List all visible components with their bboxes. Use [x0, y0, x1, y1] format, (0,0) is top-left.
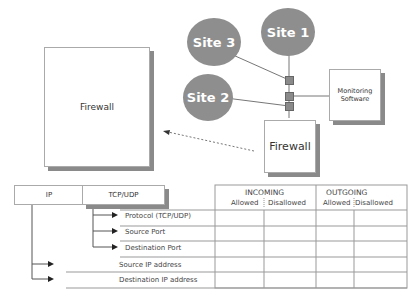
ip-header-box: IP — [14, 185, 84, 205]
firewall-large-label: Firewall — [80, 102, 114, 112]
row-label-protocol: Protocol (TCP/UDP) — [125, 212, 191, 220]
firewall-large-box: Firewall — [44, 47, 150, 167]
firewall-small-box: Firewall — [264, 120, 316, 173]
monitoring-label-line1: Monitoring — [338, 87, 373, 95]
site-2-node: Site 2 — [183, 74, 233, 121]
tcp-udp-header-box: TCP/UDP — [82, 185, 165, 205]
tcp-udp-header-label: TCP/UDP — [108, 191, 138, 199]
site-3-label: Site 3 — [193, 35, 235, 50]
outgoing-allowed-header: Allowed — [323, 199, 350, 207]
outgoing-disallowed-header: Disallowed — [355, 199, 393, 207]
site-2-label: Site 2 — [187, 90, 229, 105]
site-3-node: Site 3 — [187, 18, 241, 66]
switch-node-3 — [285, 102, 294, 111]
site-1-label: Site 1 — [267, 25, 309, 40]
row-label-destination-ip: Destination IP address — [119, 276, 197, 284]
incoming-disallowed-header: Disallowed — [268, 199, 306, 207]
row-label-source-ip: Source IP address — [119, 261, 181, 269]
outgoing-group-header: OUTGOING — [326, 188, 367, 197]
ip-header-label: IP — [46, 191, 52, 199]
site-1-node: Site 1 — [261, 8, 315, 56]
row-label-destination-port: Destination Port — [125, 244, 181, 252]
firewall-small-label: Firewall — [269, 140, 310, 153]
row-label-source-port: Source Port — [125, 228, 165, 236]
monitoring-label-line2: Software — [341, 95, 370, 103]
monitoring-software-box: Monitoring Software — [329, 69, 381, 121]
switch-node-2 — [285, 92, 294, 101]
incoming-allowed-header: Allowed — [231, 199, 258, 207]
incoming-group-header: INCOMING — [245, 188, 284, 197]
switch-node-1 — [285, 76, 294, 85]
